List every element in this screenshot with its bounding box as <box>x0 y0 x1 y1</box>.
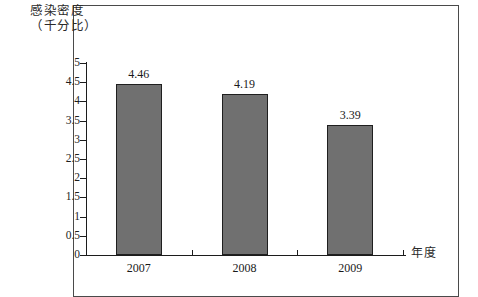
y-axis-tick-label: 3 <box>38 134 80 146</box>
y-axis-tick <box>80 255 86 256</box>
y-axis-tick-label: 0.5 <box>38 230 80 242</box>
y-axis-tick-label: 2.5 <box>38 153 80 165</box>
x-axis-category-label: 2007 <box>86 262 192 274</box>
y-axis-tick-label: 1 <box>38 211 80 223</box>
bar-value-label: 4.46 <box>86 68 192 80</box>
y-axis-tick-label: 4.5 <box>38 76 80 88</box>
y-axis-tick <box>80 197 86 198</box>
y-axis-tick-label: 0 <box>38 249 80 261</box>
y-axis-tick <box>80 159 86 160</box>
y-axis-tick <box>80 121 86 122</box>
y-axis-tick <box>80 101 86 102</box>
bar-value-label: 3.39 <box>297 109 403 121</box>
x-axis-line <box>86 255 406 256</box>
bar <box>116 84 162 255</box>
y-axis-tick <box>80 236 86 237</box>
y-axis-tick-label: 1.5 <box>38 191 80 203</box>
y-axis-tick <box>80 217 86 218</box>
chart-title-line-2: （千分比） <box>30 19 180 34</box>
bar <box>222 94 268 255</box>
x-axis-tick <box>403 250 404 256</box>
x-axis-category-label: 2008 <box>192 262 298 274</box>
y-axis-tick-label: 4 <box>38 95 80 107</box>
x-axis-tick <box>297 250 298 256</box>
y-axis-tick <box>80 82 86 83</box>
bar <box>327 125 373 255</box>
bar-value-label: 4.19 <box>192 78 298 90</box>
y-axis-tick <box>80 63 86 64</box>
x-axis-title: 年度 <box>411 243 437 261</box>
x-axis-category-label: 2009 <box>297 262 403 274</box>
y-axis-tick-label: 3.5 <box>38 115 80 127</box>
chart-title: 感染密度 （千分比） <box>30 4 180 34</box>
chart-title-line-1: 感染密度 <box>30 4 180 19</box>
y-axis-tick <box>80 140 86 141</box>
y-axis-tick-label: 5 <box>38 57 80 69</box>
x-axis-tick <box>192 250 193 256</box>
y-axis-tick <box>80 178 86 179</box>
y-axis-line <box>86 62 87 256</box>
y-axis-tick-label: 2 <box>38 172 80 184</box>
